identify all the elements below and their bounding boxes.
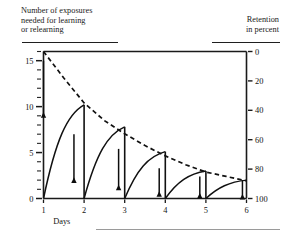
y-axis-left-tick-label: 10 <box>25 103 33 112</box>
y-axis-right-tick-label: 80 <box>255 165 263 174</box>
chart-plot-area: 051015100806040200123456Days <box>0 0 286 235</box>
y-axis-right-tick-label: 60 <box>255 136 263 145</box>
forgetting-curve-figure: Number of exposures needed for learning … <box>0 0 286 235</box>
up-arrow-icon <box>71 134 76 183</box>
forgetting-curve-segment <box>206 180 247 198</box>
forgetting-curve-segment <box>44 105 85 199</box>
axis-ticks <box>36 52 253 204</box>
y-axis-left-tick-label: 5 <box>29 149 33 158</box>
x-axis-label: Days <box>53 217 70 226</box>
y-axis-right-tick-label: 40 <box>255 106 263 115</box>
x-axis-tick-label: 3 <box>123 206 127 215</box>
y-axis-right-tick-label: 100 <box>255 195 268 204</box>
y-axis-right-tick-label: 0 <box>255 48 259 57</box>
y-axis-left-tick-label: 0 <box>29 195 33 204</box>
x-axis-tick-label: 2 <box>82 206 86 215</box>
up-arrow-icon <box>240 180 245 199</box>
relearning-arrows <box>41 61 245 200</box>
x-axis-tick-label: 4 <box>163 206 168 215</box>
x-axis-tick-label: 5 <box>204 206 208 215</box>
up-arrow-icon <box>116 149 121 190</box>
footer-rule <box>96 229 280 230</box>
up-arrow-icon <box>197 176 202 198</box>
x-axis-tick-label: 1 <box>41 206 45 215</box>
up-arrow-icon <box>41 61 46 118</box>
y-axis-left-tick-label: 15 <box>25 57 33 66</box>
y-axis-right-tick-label: 20 <box>255 77 263 86</box>
up-arrow-icon <box>157 168 162 197</box>
x-axis-tick-label: 6 <box>244 206 248 215</box>
